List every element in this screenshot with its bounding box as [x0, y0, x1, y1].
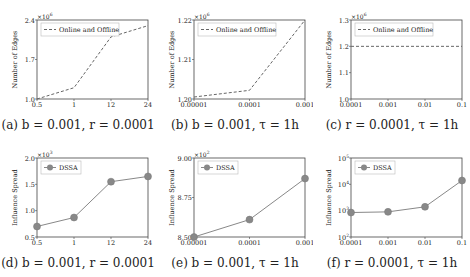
svg-text:104: 104 [338, 180, 349, 189]
svg-text:1.0: 1.0 [25, 207, 35, 215]
svg-text:0.01: 0.01 [418, 101, 432, 109]
svg-text:1.21: 1.21 [178, 56, 192, 64]
svg-text:r: r [248, 247, 252, 248]
chart-caption: (d) b = 0.001, r = 0.0001 [0, 256, 156, 270]
svg-text:Influence Spread: Influence Spread [11, 169, 19, 225]
chart-svg: 0.00010.0010.010.1102103104105bInfluence… [314, 138, 470, 248]
svg-text:DSSA: DSSA [373, 164, 392, 172]
svg-text:2.0: 2.0 [25, 155, 35, 163]
svg-text:1.3: 1.3 [339, 17, 349, 25]
chart-caption: (a) b = 0.001, r = 0.0001 [0, 118, 156, 132]
chart-panel: 0.00010.0010.010.11.01.11.21.3×106bNumbe… [314, 0, 470, 138]
chart-svg: 0.00010.0010.010.11.01.11.21.3×106bNumbe… [314, 0, 470, 110]
svg-text:×106: ×106 [37, 12, 53, 20]
svg-text:2.4: 2.4 [25, 17, 35, 25]
svg-text:24: 24 [144, 239, 152, 247]
svg-text:0.1: 0.1 [457, 101, 467, 109]
svg-text:Online and Offline: Online and Offline [373, 26, 433, 34]
svg-text:0.001: 0.001 [379, 239, 398, 247]
svg-text:×103: ×103 [37, 150, 53, 158]
svg-text:Influence Spread: Influence Spread [325, 169, 333, 225]
svg-text:8.50: 8.50 [178, 234, 192, 242]
svg-text:Number of Edges: Number of Edges [325, 31, 333, 89]
svg-text:12: 12 [107, 239, 115, 247]
svg-text:0.0001: 0.0001 [238, 239, 261, 247]
chart-svg: 0.000010.00010.0018.508.759.00×102rInflu… [157, 138, 313, 248]
svg-text:1.7: 1.7 [25, 56, 35, 64]
svg-text:1.22: 1.22 [178, 17, 192, 25]
svg-text:τ (h): τ (h) [85, 109, 100, 110]
svg-text:Influence Spread: Influence Spread [168, 169, 176, 225]
svg-text:0.001: 0.001 [379, 101, 398, 109]
svg-text:1.2: 1.2 [339, 43, 349, 51]
chart-caption: (b) b = 0.001, τ = 1h [157, 118, 313, 132]
svg-text:105: 105 [338, 154, 349, 163]
svg-text:×102: ×102 [194, 150, 210, 158]
chart-caption: (e) b = 0.001, τ = 1h [157, 256, 313, 270]
svg-text:1.5: 1.5 [25, 181, 35, 189]
svg-text:9.00: 9.00 [178, 155, 192, 163]
svg-text:8.75: 8.75 [178, 194, 192, 202]
chart-svg: 0.000010.00010.0011.201.211.22×106rNumbe… [157, 0, 313, 110]
svg-text:1.20: 1.20 [178, 96, 192, 104]
chart-panel: 0.5112240.51.01.52.0×103τ (h)Influence S… [0, 138, 156, 276]
chart-panel: 0.5112241.01.72.4×106τ (h)Number of Edge… [0, 0, 156, 138]
svg-text:24: 24 [144, 101, 152, 109]
svg-text:1.0: 1.0 [25, 96, 35, 104]
chart-caption: (f) r = 0.0001, τ = 1h [314, 256, 470, 270]
svg-text:b: b [404, 109, 408, 110]
svg-text:×106: ×106 [351, 12, 367, 20]
svg-text:1: 1 [72, 101, 76, 109]
chart-caption: (c) r = 0.0001, τ = 1h [314, 118, 470, 132]
svg-text:r: r [248, 109, 252, 110]
svg-text:Online and Offline: Online and Offline [216, 26, 276, 34]
svg-text:1.1: 1.1 [339, 69, 349, 77]
svg-text:0.001: 0.001 [296, 239, 313, 247]
svg-text:DSSA: DSSA [59, 164, 78, 172]
svg-text:0.5: 0.5 [25, 234, 35, 242]
svg-text:b: b [404, 247, 408, 248]
svg-text:103: 103 [338, 206, 349, 215]
svg-text:0.001: 0.001 [296, 101, 313, 109]
svg-text:0.0001: 0.0001 [238, 101, 261, 109]
svg-text:12: 12 [107, 101, 115, 109]
chart-panel: 0.000010.00010.0011.201.211.22×106rNumbe… [157, 0, 313, 138]
chart-svg: 0.5112240.51.01.52.0×103τ (h)Influence S… [0, 138, 156, 248]
svg-text:Number of Edges: Number of Edges [168, 31, 176, 89]
chart-panel: 0.000010.00010.0018.508.759.00×102rInflu… [157, 138, 313, 276]
chart-svg: 0.5112241.01.72.4×106τ (h)Number of Edge… [0, 0, 156, 110]
chart-panel: 0.00010.0010.010.1102103104105bInfluence… [314, 138, 470, 276]
svg-text:Number of Edges: Number of Edges [11, 31, 19, 89]
svg-text:0.1: 0.1 [457, 239, 467, 247]
svg-text:1: 1 [72, 239, 76, 247]
svg-text:Online and Offline: Online and Offline [59, 26, 119, 34]
svg-text:0.01: 0.01 [418, 239, 432, 247]
svg-text:×106: ×106 [194, 12, 210, 20]
svg-text:DSSA: DSSA [216, 164, 235, 172]
svg-text:1.0: 1.0 [339, 96, 349, 104]
svg-text:τ (h): τ (h) [85, 247, 100, 248]
